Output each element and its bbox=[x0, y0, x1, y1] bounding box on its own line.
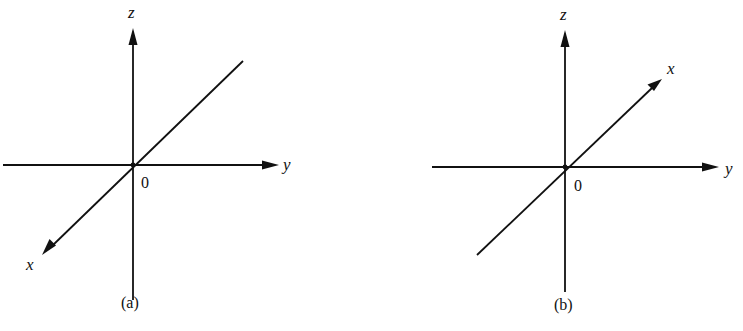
panel-a-origin-label: 0 bbox=[141, 175, 149, 191]
panel-a-x-arrow-icon bbox=[42, 239, 56, 255]
panel-b-axes bbox=[432, 30, 719, 292]
panel-a-axes bbox=[3, 28, 279, 300]
panel-a-z-label: z bbox=[128, 4, 135, 21]
panel-a-y-label: y bbox=[283, 156, 291, 173]
panel-b-z-label: z bbox=[560, 6, 567, 23]
coordinate-systems-figure bbox=[0, 0, 743, 331]
panel-b-origin-dot bbox=[563, 165, 568, 170]
panel-b-origin-label: 0 bbox=[574, 178, 582, 194]
panel-a-x-label: x bbox=[26, 256, 34, 273]
panel-b-z-arrow-icon bbox=[561, 30, 570, 47]
panel-b-x-label: x bbox=[667, 60, 675, 77]
panel-b-y-label: y bbox=[725, 160, 733, 177]
panel-a-z-arrow-icon bbox=[129, 28, 138, 45]
panel-a-y-arrow-icon bbox=[262, 161, 279, 170]
panel-b-caption: (b) bbox=[554, 297, 573, 313]
panel-a-x-axis bbox=[52, 61, 243, 246]
panel-a-origin-dot bbox=[131, 163, 136, 168]
panel-b-y-arrow-icon bbox=[702, 163, 719, 172]
panel-a-caption: (a) bbox=[121, 295, 139, 311]
